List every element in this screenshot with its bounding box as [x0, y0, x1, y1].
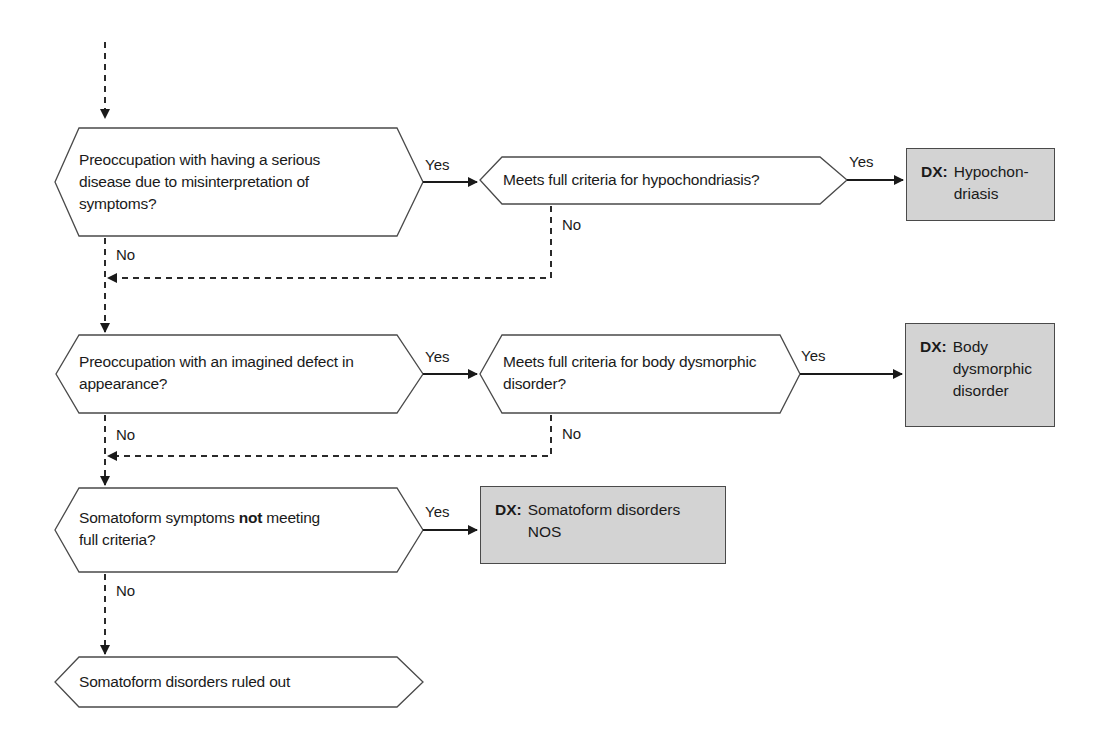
dx-hypochondriasis-box: DX: Hypochon- driasis	[906, 148, 1055, 221]
dx-body-dysmorphic-text: Body dysmorphic disorder	[953, 336, 1032, 402]
decision-2-yes-label: Yes	[425, 348, 449, 366]
decision-1-line-3: symptoms?	[79, 193, 399, 215]
dx-somatoform-nos-box: DX: Somatoform disorders NOS	[480, 486, 726, 564]
decision-1b-line-1: Meets full criteria for hypochondriasis?	[503, 169, 823, 191]
terminal-text: Somatoform disorders ruled out	[79, 671, 409, 693]
decision-2b-text: Meets full criteria for body dysmorphic …	[503, 351, 793, 395]
decision-2b-no-label: No	[562, 425, 581, 443]
dx-tag: DX:	[920, 336, 947, 402]
decision-1-no-label: No	[116, 246, 135, 264]
dx-tag: DX:	[495, 499, 522, 543]
dx-hypochondriasis-text: Hypochon- driasis	[954, 161, 1029, 205]
decision-3-emphasis: not	[239, 509, 263, 526]
decision-2-no-label: No	[116, 426, 135, 444]
decision-2-text: Preoccupation with an imagined defect in…	[79, 351, 409, 395]
decision-2b-line-1: Meets full criteria for body dysmorphic	[503, 351, 793, 373]
decision-3-line-2: full criteria?	[79, 529, 399, 551]
decision-1b-text: Meets full criteria for hypochondriasis?	[503, 169, 823, 191]
decision-1-yes-label: Yes	[425, 156, 449, 174]
dx-somatoform-nos-text: Somatoform disorders NOS	[528, 499, 680, 543]
decision-1-text: Preoccupation with having a serious dise…	[79, 149, 399, 215]
decision-2b-line-2: disorder?	[503, 373, 793, 395]
decision-2b-yes-label: Yes	[801, 347, 825, 365]
decision-1-line-1: Preoccupation with having a serious	[79, 149, 399, 171]
decision-3-line-1-pre: Somatoform symptoms	[79, 509, 239, 526]
decision-3-line-1-post: meeting	[262, 509, 320, 526]
dx-tag: DX:	[921, 161, 948, 205]
decision-1b-no-label: No	[562, 216, 581, 234]
decision-1b-yes-label: Yes	[849, 153, 873, 171]
decision-3-yes-label: Yes	[425, 503, 449, 521]
dx-body-dysmorphic-box: DX: Body dysmorphic disorder	[905, 323, 1055, 427]
decision-3-no-label: No	[116, 582, 135, 600]
no-connector-2b	[108, 415, 551, 456]
decision-3-line-1: Somatoform symptoms not meeting	[79, 507, 399, 529]
decision-2-line-1: Preoccupation with an imagined defect in	[79, 351, 409, 373]
decision-1-line-2: disease due to misinterpretation of	[79, 171, 399, 193]
decision-2-line-2: appearance?	[79, 373, 409, 395]
decision-3-text: Somatoform symptoms not meeting full cri…	[79, 507, 399, 551]
